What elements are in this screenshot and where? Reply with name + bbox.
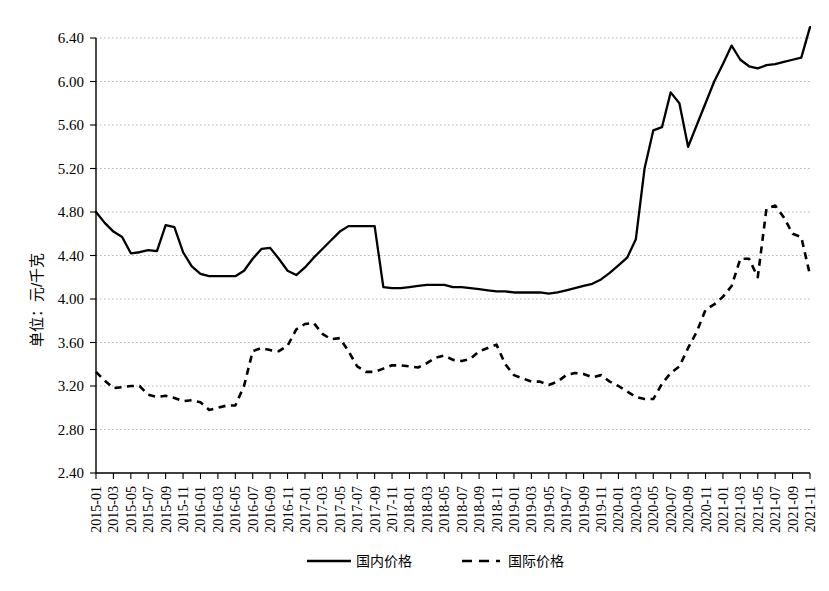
x-tick-label: 2017-09 (368, 486, 383, 533)
y-tick-label: 6.00 (58, 74, 84, 90)
y-axis-title-text: 单位：元/千克 (28, 253, 45, 347)
x-tick-label: 2021-03 (733, 486, 748, 533)
y-tick-label: 6.40 (58, 30, 84, 46)
line-chart: 6.406.005.605.204.804.404.003.603.202.80… (0, 0, 829, 591)
x-tick-label: 2017-05 (333, 486, 348, 533)
x-tick-label: 2019-09 (577, 486, 592, 533)
y-tick-label: 3.60 (58, 335, 84, 351)
y-axis-tickmarks (90, 38, 96, 473)
x-tick-label: 2021-11 (803, 486, 818, 532)
x-tick-label: 2016-01 (193, 486, 208, 533)
y-tick-label: 3.20 (58, 378, 84, 394)
x-tick-label: 2015-03 (106, 486, 121, 533)
chart-container: 6.406.005.605.204.804.404.003.603.202.80… (0, 0, 829, 591)
x-tick-label: 2018-01 (402, 486, 417, 533)
x-tick-label: 2021-01 (716, 486, 731, 533)
x-tick-label: 2020-03 (629, 486, 644, 533)
y-axis-tick-labels: 6.406.005.605.204.804.404.003.603.202.80… (58, 30, 84, 481)
x-tick-label: 2016-07 (246, 486, 261, 533)
x-tick-label: 2019-07 (559, 486, 574, 533)
x-tick-label: 2020-09 (681, 486, 696, 533)
x-tick-label: 2019-03 (524, 486, 539, 533)
x-tick-label: 2021-05 (751, 486, 766, 533)
x-tick-label: 2015-09 (159, 486, 174, 533)
gridlines-group (96, 38, 810, 430)
y-tick-label: 5.20 (58, 161, 84, 177)
x-tick-label: 2018-09 (472, 486, 487, 533)
legend-label-domestic: 国内价格 (356, 553, 412, 569)
y-tick-label: 2.80 (58, 422, 84, 438)
chart-legend: 国内价格 国际价格 (307, 553, 564, 569)
x-tick-label: 2015-07 (141, 486, 156, 533)
x-tick-label: 2017-11 (385, 486, 400, 532)
x-tick-label: 2020-01 (611, 486, 626, 533)
x-tick-label: 2019-01 (507, 486, 522, 533)
x-tick-label: 2015-01 (89, 486, 104, 533)
x-tick-label: 2018-03 (420, 486, 435, 533)
y-tick-label: 2.40 (58, 465, 84, 481)
x-tick-label: 2017-07 (350, 486, 365, 533)
x-tick-label: 2020-11 (699, 486, 714, 532)
x-tick-label: 2015-05 (124, 486, 139, 533)
y-axis-title: 单位：元/千克 (28, 253, 45, 347)
legend-label-international: 国际价格 (508, 553, 564, 569)
y-tick-label: 4.80 (58, 204, 84, 220)
x-tick-label: 2018-05 (437, 486, 452, 533)
x-tick-label: 2016-11 (281, 486, 296, 532)
x-tick-label: 2017-03 (315, 486, 330, 533)
x-tick-label: 2020-05 (646, 486, 661, 533)
x-tick-label: 2016-09 (263, 486, 278, 533)
y-tick-label: 4.00 (58, 291, 84, 307)
x-tick-label: 2015-11 (176, 486, 191, 532)
series-line-international (96, 205, 810, 409)
x-tick-label: 2020-07 (664, 486, 679, 533)
x-tick-label: 2017-01 (298, 486, 313, 533)
x-tick-label: 2021-09 (786, 486, 801, 533)
series-line-domestic (96, 27, 810, 293)
x-tick-label: 2019-11 (594, 486, 609, 532)
x-axis-tickmarks (96, 473, 810, 479)
x-tick-label: 2018-11 (490, 486, 505, 532)
x-tick-label: 2019-05 (542, 486, 557, 533)
y-tick-label: 5.60 (58, 117, 84, 133)
x-tick-label: 2016-03 (211, 486, 226, 533)
x-axis-tick-labels: 2015-012015-032015-052015-072015-092015-… (89, 486, 818, 533)
x-tick-label: 2016-05 (228, 486, 243, 533)
x-tick-label: 2018-07 (455, 486, 470, 533)
x-tick-label: 2021-07 (768, 486, 783, 533)
y-tick-label: 4.40 (58, 248, 84, 264)
